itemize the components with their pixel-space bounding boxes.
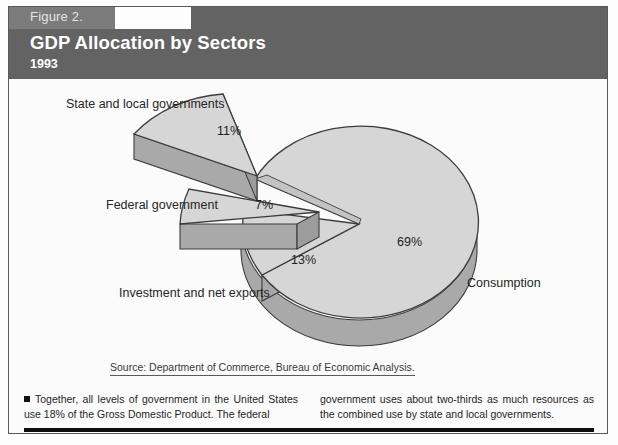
figure-number-label: Figure 2. [30,9,83,24]
footnote-column-left: Together, all levels of government in th… [24,392,298,422]
category-label-investment: Investment and net exports [119,286,270,300]
footnote-text-left: Together, all levels of government in th… [24,393,298,420]
pct-label-federal: 7% [255,198,273,212]
footnote: Together, all levels of government in th… [24,392,594,422]
source-note: Source: Department of Commerce, Bureau o… [110,361,415,376]
pie-chart: 11% 7% 13% 69% State and local governmen… [9,79,607,357]
category-label-consumption: Consumption [467,276,541,290]
pct-label-state-local: 11% [217,124,241,138]
bullet-square-icon [24,396,30,402]
pct-label-consumption: 69% [397,235,422,249]
pie-chart-svg: 11% 7% 13% 69% State and local governmen… [9,79,607,357]
footnote-column-right: government uses about two-thirds as much… [320,392,594,422]
category-label-federal: Federal government [106,198,218,212]
page-title: GDP Allocation by Sectors [30,32,266,54]
category-label-state-local: State and local governments [66,97,224,111]
pie-slice-federal-wall [180,224,297,249]
header-notch [115,7,191,29]
figure-container: Figure 2. GDP Allocation by Sectors 1993 [0,0,618,445]
bottom-rule [24,428,594,432]
pct-label-investment: 13% [291,253,316,267]
figure-year: 1993 [30,57,58,71]
